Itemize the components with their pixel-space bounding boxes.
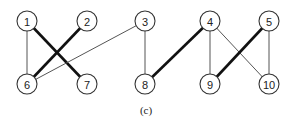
node-8: 8: [135, 74, 155, 94]
node-label: 9: [207, 79, 213, 91]
node-label: 10: [263, 79, 275, 91]
node-label: 1: [24, 16, 30, 28]
figure-caption: (c): [140, 104, 153, 117]
node-label: 6: [24, 79, 30, 91]
node-1: 1: [17, 11, 37, 31]
node-9: 9: [200, 74, 220, 94]
node-7: 7: [77, 74, 97, 94]
node-label: 3: [142, 16, 148, 28]
node-6: 6: [17, 74, 37, 94]
graph-diagram: 12345678910 (c): [0, 0, 291, 128]
node-10: 10: [259, 74, 279, 94]
node-4: 4: [200, 11, 220, 31]
node-label: 8: [142, 79, 148, 91]
node-label: 5: [266, 16, 272, 28]
node-label: 2: [84, 16, 90, 28]
node-label: 4: [207, 16, 213, 28]
edge-4-8: [145, 21, 210, 84]
node-2: 2: [77, 11, 97, 31]
node-3: 3: [135, 11, 155, 31]
node-label: 7: [84, 79, 90, 91]
node-5: 5: [259, 11, 279, 31]
